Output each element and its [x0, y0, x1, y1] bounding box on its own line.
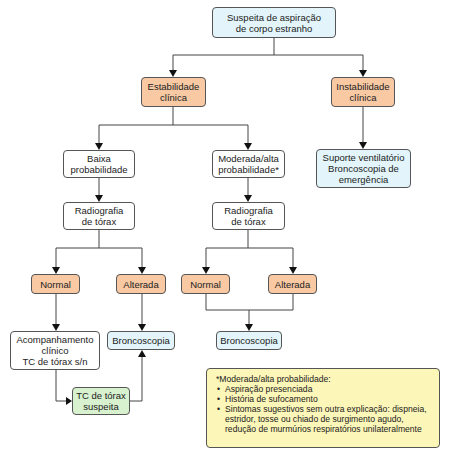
node-bronchoscopy-right: Broncoscopia: [216, 331, 282, 350]
node-suspected-aspiration: Suspeita de aspiração de corpo estranho: [212, 7, 336, 38]
node-chest-xray-left: Radiografia de tórax: [63, 202, 135, 230]
node-clinical-instability: Instabilidade clínica: [331, 77, 395, 107]
footnote-item: Sintomas sugestivos sem outra explicação…: [225, 404, 433, 434]
node-clinical-followup: Acompanhamento clínico TC de tórax s/n: [10, 331, 100, 370]
node-altered-right: Alterada: [268, 274, 317, 294]
node-low-probability: Baixa probabilidade: [63, 150, 135, 178]
node-ventilatory-support: Suporte ventilatório Broncoscopia de eme…: [316, 149, 411, 188]
footnote-box: *Moderada/alta probabilidade: Aspiração …: [206, 368, 440, 448]
footnote-item: Aspiração presenciada: [225, 384, 433, 394]
node-chest-xray-right: Radiografia de tórax: [212, 202, 285, 230]
node-bronchoscopy-left: Broncoscopia: [107, 331, 175, 350]
footnote-item: História de sufocamento: [225, 394, 433, 404]
node-normal-left: Normal: [31, 274, 80, 294]
flowchart-canvas: Suspeita de aspiração de corpo estranho …: [0, 0, 454, 462]
node-suspicious-ct: TC de tórax suspeita: [72, 387, 130, 415]
node-clinical-stability: Estabilidade clínica: [141, 77, 206, 107]
node-moderate-high-probability: Moderada/alta probabilidade*: [212, 150, 285, 178]
footnote-title: *Moderada/alta probabilidade:: [216, 374, 433, 384]
node-altered-left: Alterada: [116, 274, 166, 294]
node-normal-right: Normal: [181, 274, 230, 294]
footnote-list: Aspiração presenciada História de sufoca…: [216, 384, 433, 434]
